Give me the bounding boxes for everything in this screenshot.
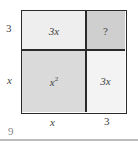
cell-bottom-right: 3x xyxy=(86,50,125,112)
footer-rule xyxy=(0,139,138,141)
cell-top-right-unknown: ? xyxy=(103,25,108,37)
cell-bottom-left: x2 xyxy=(22,50,86,112)
side-label-left-bottom: x xyxy=(7,74,12,86)
cell-top-left-label: 3x xyxy=(49,25,59,37)
horizontal-divider xyxy=(22,49,125,51)
area-model-square: 3x ? x2 3x xyxy=(21,10,127,114)
page-number: 9 xyxy=(8,125,14,137)
vertical-divider xyxy=(85,11,87,112)
side-label-left-top: 3 xyxy=(6,22,12,34)
cell-bottom-right-label: 3x xyxy=(100,75,110,87)
cell-top-left: 3x xyxy=(22,11,86,50)
side-label-bottom-right: 3 xyxy=(104,115,110,127)
side-label-bottom-left: x xyxy=(50,116,55,128)
exponent: 2 xyxy=(55,75,59,83)
cell-top-right: ? xyxy=(86,11,125,50)
cell-bottom-left-label: x2 xyxy=(50,75,58,88)
